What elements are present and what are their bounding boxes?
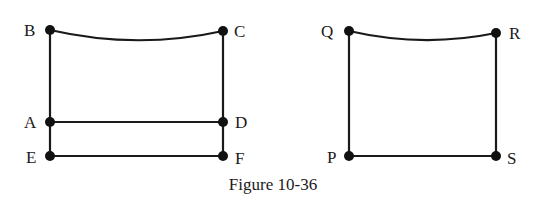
vertex-B xyxy=(45,25,55,35)
vertex-P xyxy=(344,151,354,161)
vertex-E xyxy=(45,151,55,161)
label-D: D xyxy=(235,113,247,132)
label-A: A xyxy=(24,113,37,132)
edge-B-C xyxy=(50,30,223,40)
label-S: S xyxy=(507,149,516,168)
label-P: P xyxy=(327,148,336,167)
vertex-D xyxy=(218,117,228,127)
vertex-S xyxy=(491,151,501,161)
edge-Q-R xyxy=(349,31,496,40)
label-B: B xyxy=(24,21,35,40)
figure-caption: Figure 10-36 xyxy=(229,175,317,194)
vertex-R xyxy=(491,28,501,38)
figure-canvas: B C A D E F Q R P S Figure 10-36 xyxy=(0,0,547,203)
vertex-F xyxy=(218,151,228,161)
label-C: C xyxy=(234,22,245,41)
vertex-A xyxy=(45,117,55,127)
right-graph: Q R P S xyxy=(321,22,521,168)
label-F: F xyxy=(235,149,244,168)
vertex-C xyxy=(218,26,228,36)
left-graph: B C A D E F xyxy=(24,21,247,168)
label-R: R xyxy=(509,24,521,43)
label-E: E xyxy=(26,148,36,167)
vertex-Q xyxy=(344,26,354,36)
label-Q: Q xyxy=(321,22,333,41)
